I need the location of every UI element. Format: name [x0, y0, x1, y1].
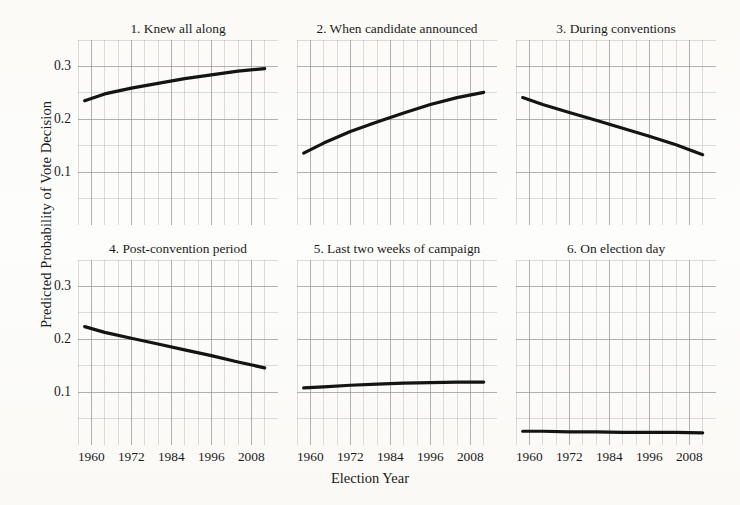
x-axis-title: Election Year	[0, 470, 740, 487]
panel-3: 3. During conventions	[516, 40, 716, 225]
panel-1: 1. Knew all along 0.10.20.3	[78, 40, 278, 225]
y-tick-label: 0.3	[54, 58, 71, 74]
panel-5: 5. Last two weeks of campaign 1960197219…	[297, 260, 497, 445]
panel-6: 6. On election day 19601972198419962008	[516, 260, 716, 445]
y-tick-label: 0.1	[54, 164, 71, 180]
panel-2-plot	[297, 40, 497, 225]
x-tick-label: 1984	[596, 449, 623, 465]
panel-3-title: 3. During conventions	[516, 21, 716, 37]
x-tick-label: 1972	[337, 449, 364, 465]
y-tick-label: 0.2	[54, 331, 71, 347]
x-tick-label: 2008	[676, 449, 703, 465]
x-tick-label: 1984	[377, 449, 404, 465]
panel-2: 2. When candidate announced	[297, 40, 497, 225]
panel-4-title: 4. Post-convention period	[78, 241, 278, 257]
panel-6-title: 6. On election day	[516, 241, 716, 257]
y-axis-title: Predicted Probability of Vote Decision	[38, 65, 55, 365]
y-tick-label: 0.1	[54, 384, 71, 400]
x-tick-label: 1972	[556, 449, 583, 465]
x-tick-label: 1960	[297, 449, 324, 465]
panel-2-title: 2. When candidate announced	[297, 21, 497, 37]
x-tick-label: 1996	[636, 449, 663, 465]
x-tick-label: 2008	[457, 449, 484, 465]
x-tick-label: 1972	[118, 449, 145, 465]
panel-4: 4. Post-convention period 0.10.20.319601…	[78, 260, 278, 445]
y-tick-label: 0.2	[54, 111, 71, 127]
panel-3-plot	[516, 40, 716, 225]
panel-1-title: 1. Knew all along	[78, 21, 278, 37]
panel-5-title: 5. Last two weeks of campaign	[297, 241, 497, 257]
x-tick-label: 1960	[78, 449, 105, 465]
x-tick-label: 1996	[198, 449, 225, 465]
x-tick-label: 1996	[417, 449, 444, 465]
x-tick-label: 2008	[238, 449, 265, 465]
panel-5-plot	[297, 260, 497, 445]
small-multiples-figure: Predicted Probability of Vote Decision E…	[0, 0, 740, 505]
y-tick-label: 0.3	[54, 278, 71, 294]
panel-1-plot	[78, 40, 278, 225]
x-tick-label: 1984	[158, 449, 185, 465]
panel-4-plot	[78, 260, 278, 445]
panel-6-plot	[516, 260, 716, 445]
x-tick-label: 1960	[516, 449, 543, 465]
